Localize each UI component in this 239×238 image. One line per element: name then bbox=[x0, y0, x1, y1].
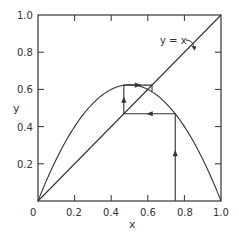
y-tick-label: 0.4 bbox=[17, 122, 33, 133]
annotation-arrowhead-icon bbox=[192, 46, 197, 51]
cobweb-arrows bbox=[121, 83, 178, 157]
diagonal-annotation: y = x bbox=[160, 35, 187, 46]
x-tick-label: 0 bbox=[30, 207, 36, 218]
x-tick-label: 0.4 bbox=[103, 207, 119, 218]
y-tick-label: 0.8 bbox=[17, 47, 33, 58]
arrowhead-icon bbox=[173, 150, 178, 156]
y-tick-label: 1.0 bbox=[17, 10, 33, 21]
parabola-curve bbox=[38, 85, 221, 201]
diagonal-line bbox=[38, 15, 221, 201]
x-ticks bbox=[75, 195, 185, 201]
arrowhead-icon bbox=[146, 111, 152, 116]
y-axis-label: y bbox=[13, 102, 20, 115]
y-tick-label: 0.6 bbox=[17, 84, 33, 95]
x-tick-label: 0.8 bbox=[177, 207, 193, 218]
x-tick-label: 1.0 bbox=[213, 207, 229, 218]
right-ticks bbox=[215, 52, 221, 164]
cobweb-chart: 0 0.2 0.4 0.6 0.8 1.0 0.2 0.4 0.6 0.8 1.… bbox=[0, 0, 239, 238]
x-tick-label: 0.2 bbox=[66, 207, 82, 218]
top-ticks bbox=[75, 15, 185, 21]
y-ticks bbox=[38, 52, 44, 164]
x-tick-label: 0.6 bbox=[140, 207, 156, 218]
y-tick-label: 0.2 bbox=[17, 159, 33, 170]
arrowhead-icon bbox=[121, 96, 126, 102]
arrowhead-icon bbox=[135, 83, 141, 88]
cobweb-path bbox=[124, 85, 175, 201]
x-axis-label: x bbox=[129, 218, 136, 231]
